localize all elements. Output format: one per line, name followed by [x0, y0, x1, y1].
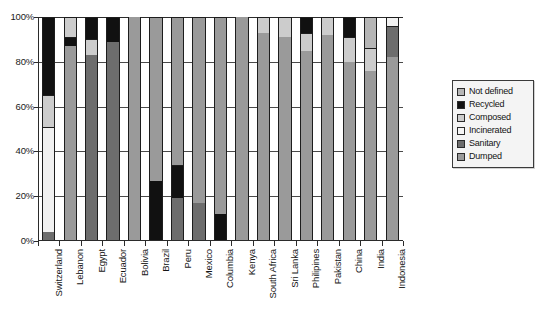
y-axis-tick-label: 0% [0, 236, 34, 246]
legend-item[interactable]: Recycled [457, 98, 530, 111]
x-axis-tick-mark [296, 241, 297, 246]
x-axis-tick-mark [188, 241, 189, 246]
x-axis-tick-label: Indonesia [397, 249, 407, 289]
x-axis-tick-mark [231, 241, 232, 246]
x-axis-tick-mark [274, 241, 275, 246]
x-axis-tick-mark [38, 241, 39, 246]
x-axis-tick-mark [145, 241, 146, 246]
legend-item[interactable]: Incinerated [457, 124, 530, 137]
x-axis-tick-mark [382, 241, 383, 246]
y-axis-tick-label: 60% [0, 102, 34, 112]
legend-swatch-icon [457, 88, 465, 96]
x-axis-label-slot: Switzerland [38, 247, 59, 311]
legend-item-label: Dumped [469, 152, 502, 161]
x-axis-labels: SwitzerlandLebanonEgyptEcuadorBoliviaBra… [38, 247, 403, 311]
x-axis-tick-mark [360, 241, 361, 246]
legend-swatch-icon [457, 127, 465, 135]
x-axis-label-slot: Pakistan [317, 247, 338, 311]
x-axis-label-slot: Columbia [210, 247, 231, 311]
x-axis-tick-mark [403, 241, 404, 246]
x-axis-label-slot: Philipines [296, 247, 317, 311]
legend-swatch-icon [457, 114, 465, 122]
x-axis-tick-mark [59, 241, 60, 246]
y-axis-tick-label: 20% [0, 191, 34, 201]
x-axis-label-slot: Bolivia [124, 247, 145, 311]
x-axis-label-slot: China [339, 247, 360, 311]
legend-item[interactable]: Dumped [457, 150, 530, 163]
x-axis-label-slot: Sri Lanka [274, 247, 295, 311]
x-axis-label-slot: South Africa [253, 247, 274, 311]
x-axis-tick-mark [167, 241, 168, 246]
x-axis-ticks [38, 241, 403, 246]
x-axis-label-slot: Indonesia [382, 247, 403, 311]
stacked-bar-chart: 0%20%40%60%80%100% SwitzerlandLebanonEgy… [0, 0, 538, 312]
x-axis-label-slot: India [360, 247, 381, 311]
x-axis-label-slot: Ecuador [102, 247, 123, 311]
legend-swatch-icon [457, 101, 465, 109]
y-axis-tick-label: 40% [0, 147, 34, 157]
legend-swatch-icon [457, 140, 465, 148]
plot-frame [38, 17, 403, 241]
x-axis-tick-mark [210, 241, 211, 246]
x-axis-tick-mark [124, 241, 125, 246]
legend-item[interactable]: Not defined [457, 85, 530, 98]
x-axis-label-slot: Mexico [188, 247, 209, 311]
y-axis-tick-label: 100% [0, 12, 34, 22]
x-axis-label-slot: Peru [167, 247, 188, 311]
legend-item-label: Recycled [469, 100, 504, 109]
legend-item[interactable]: Composed [457, 111, 530, 124]
y-axis-tick-label: 80% [0, 57, 34, 67]
legend-item-label: Not defined [469, 87, 513, 96]
legend-item-label: Composed [469, 113, 511, 122]
x-axis-tick-mark [253, 241, 254, 246]
legend: Not definedRecycledComposedIncineratedSa… [452, 80, 534, 168]
x-axis-label-slot: Lebanon [59, 247, 80, 311]
legend-item[interactable]: Sanitary [457, 137, 530, 150]
legend-item-label: Incinerated [469, 126, 511, 135]
x-axis-label-slot: Brazil [145, 247, 166, 311]
legend-swatch-icon [457, 153, 465, 161]
x-axis-label-slot: Egypt [81, 247, 102, 311]
x-axis-tick-mark [339, 241, 340, 246]
x-axis-label-slot: Kenya [231, 247, 252, 311]
x-axis-tick-mark [317, 241, 318, 246]
legend-item-label: Sanitary [469, 139, 500, 148]
x-axis-tick-mark [102, 241, 103, 246]
plot-area [38, 17, 403, 241]
x-axis-tick-mark [81, 241, 82, 246]
